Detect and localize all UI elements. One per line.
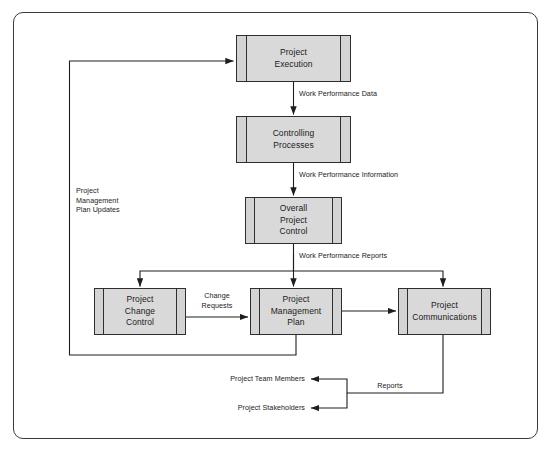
node-controlling-processes[interactable]: Controlling Processes [236,116,351,163]
terminal-project-stakeholders: Project Stakeholders [185,403,305,413]
edge-label-change-requests: Change Requests [192,291,242,310]
edge-label-reports: Reports [363,381,417,391]
node-overall-project-control[interactable]: Overall Project Control [245,197,342,244]
edge-label-project-management-plan-updates: Project Management Plan Updates [76,186,120,215]
node-project-change-control[interactable]: Project Change Control [94,288,186,335]
edge-label-work-performance-data: Work Performance Data [299,89,377,99]
node-label-project-execution: Project Execution [270,47,316,70]
node-label-project-change-control: Project Change Control [121,294,159,329]
node-project-execution[interactable]: Project Execution [236,35,351,82]
edge-label-work-performance-reports: Work Performance Reports [299,251,387,261]
node-label-project-management-plan: Project Management Plan [267,294,326,329]
node-label-controlling-processes: Controlling Processes [269,128,319,151]
node-project-management-plan[interactable]: Project Management Plan [250,288,342,335]
node-label-project-communications: Project Communications [408,300,481,323]
diagram-canvas: Project Execution Controlling Processes … [0,0,552,454]
terminal-project-team-members: Project Team Members [185,374,305,384]
node-project-communications[interactable]: Project Communications [398,288,491,335]
edge-label-work-performance-information: Work Performance Information [299,170,398,180]
node-label-overall-project-control: Overall Project Control [275,203,311,238]
